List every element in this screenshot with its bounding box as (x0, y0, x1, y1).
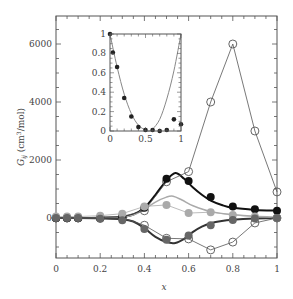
open-circle-marker (229, 40, 237, 48)
filled-circle-marker (251, 205, 259, 213)
inset-y-tick-label: 0.6 (92, 68, 107, 78)
inset-marker (129, 114, 134, 119)
filled-circle-marker (118, 216, 126, 224)
filled-circle-marker (185, 177, 193, 185)
inset-y-tick-label: 0.8 (92, 48, 107, 58)
open-circle-marker (207, 246, 215, 254)
filled-circle-marker (63, 214, 71, 222)
y-tick-label: 0 (46, 213, 52, 223)
y-axis-label: Gij (cm3/mol) (15, 108, 28, 166)
x-tick-label: 0.6 (181, 264, 196, 274)
open-circle-marker (251, 127, 259, 135)
x-tick-label: 0.8 (226, 264, 241, 274)
x-tick-label: 0.4 (137, 264, 152, 274)
filled-circle-marker (207, 208, 215, 216)
open-circle-marker (185, 168, 193, 176)
y-tick-label: 6000 (29, 39, 52, 49)
inset-x-tick-label: 1 (178, 134, 184, 144)
filled-circle-marker (52, 214, 60, 222)
filled-circle-marker (96, 215, 104, 223)
y-tick-label: 2000 (29, 155, 52, 165)
x-tick-label: 1 (274, 264, 280, 274)
filled-circle-marker (251, 215, 259, 223)
open-circle-marker (207, 98, 215, 106)
filled-circle-marker (185, 209, 193, 217)
filled-circle-marker (140, 225, 148, 233)
filled-circle-marker (273, 214, 281, 222)
y-tick-label: 4000 (29, 97, 52, 107)
filled-circle-marker (207, 221, 215, 229)
inset-y-tick-label: 0 (100, 126, 106, 136)
filled-circle-marker (163, 201, 171, 209)
y-axis-label-units-pre: (cm (16, 135, 26, 155)
inset-marker (115, 65, 120, 70)
inset-x-tick-label: 0.5 (138, 134, 153, 144)
x-tick-label: 0.2 (93, 264, 107, 274)
inset-marker (172, 117, 177, 122)
inset-marker (111, 50, 116, 55)
filled-circle-marker (185, 231, 193, 239)
filled-circle-marker (229, 216, 237, 224)
filled-circle-marker (163, 236, 171, 244)
inset-x-tick-label: 0 (107, 134, 113, 144)
filled-circle-marker (273, 207, 281, 215)
x-tick-label: 0 (53, 264, 59, 274)
chart: 00.20.40.60.810200040006000 00.5100.20.4… (0, 0, 293, 299)
y-axis-label-units-post: /mol) (16, 108, 26, 131)
filled-circle-marker (207, 193, 215, 201)
filled-circle-marker (163, 175, 171, 183)
y-axis-label-symbol: G (16, 159, 26, 166)
filled-circle-marker (229, 202, 237, 210)
inset-y-tick-label: 0.2 (92, 107, 106, 117)
filled-circle-marker (140, 202, 148, 210)
inset-marker (122, 96, 127, 101)
open-circle-marker (273, 188, 281, 196)
inset-y-tick-label: 1 (100, 29, 106, 39)
filled-circle-marker (74, 214, 82, 222)
inset-y-tick-label: 0.4 (92, 87, 107, 97)
open-circle-marker (229, 238, 237, 246)
x-axis-label: x (161, 282, 166, 292)
